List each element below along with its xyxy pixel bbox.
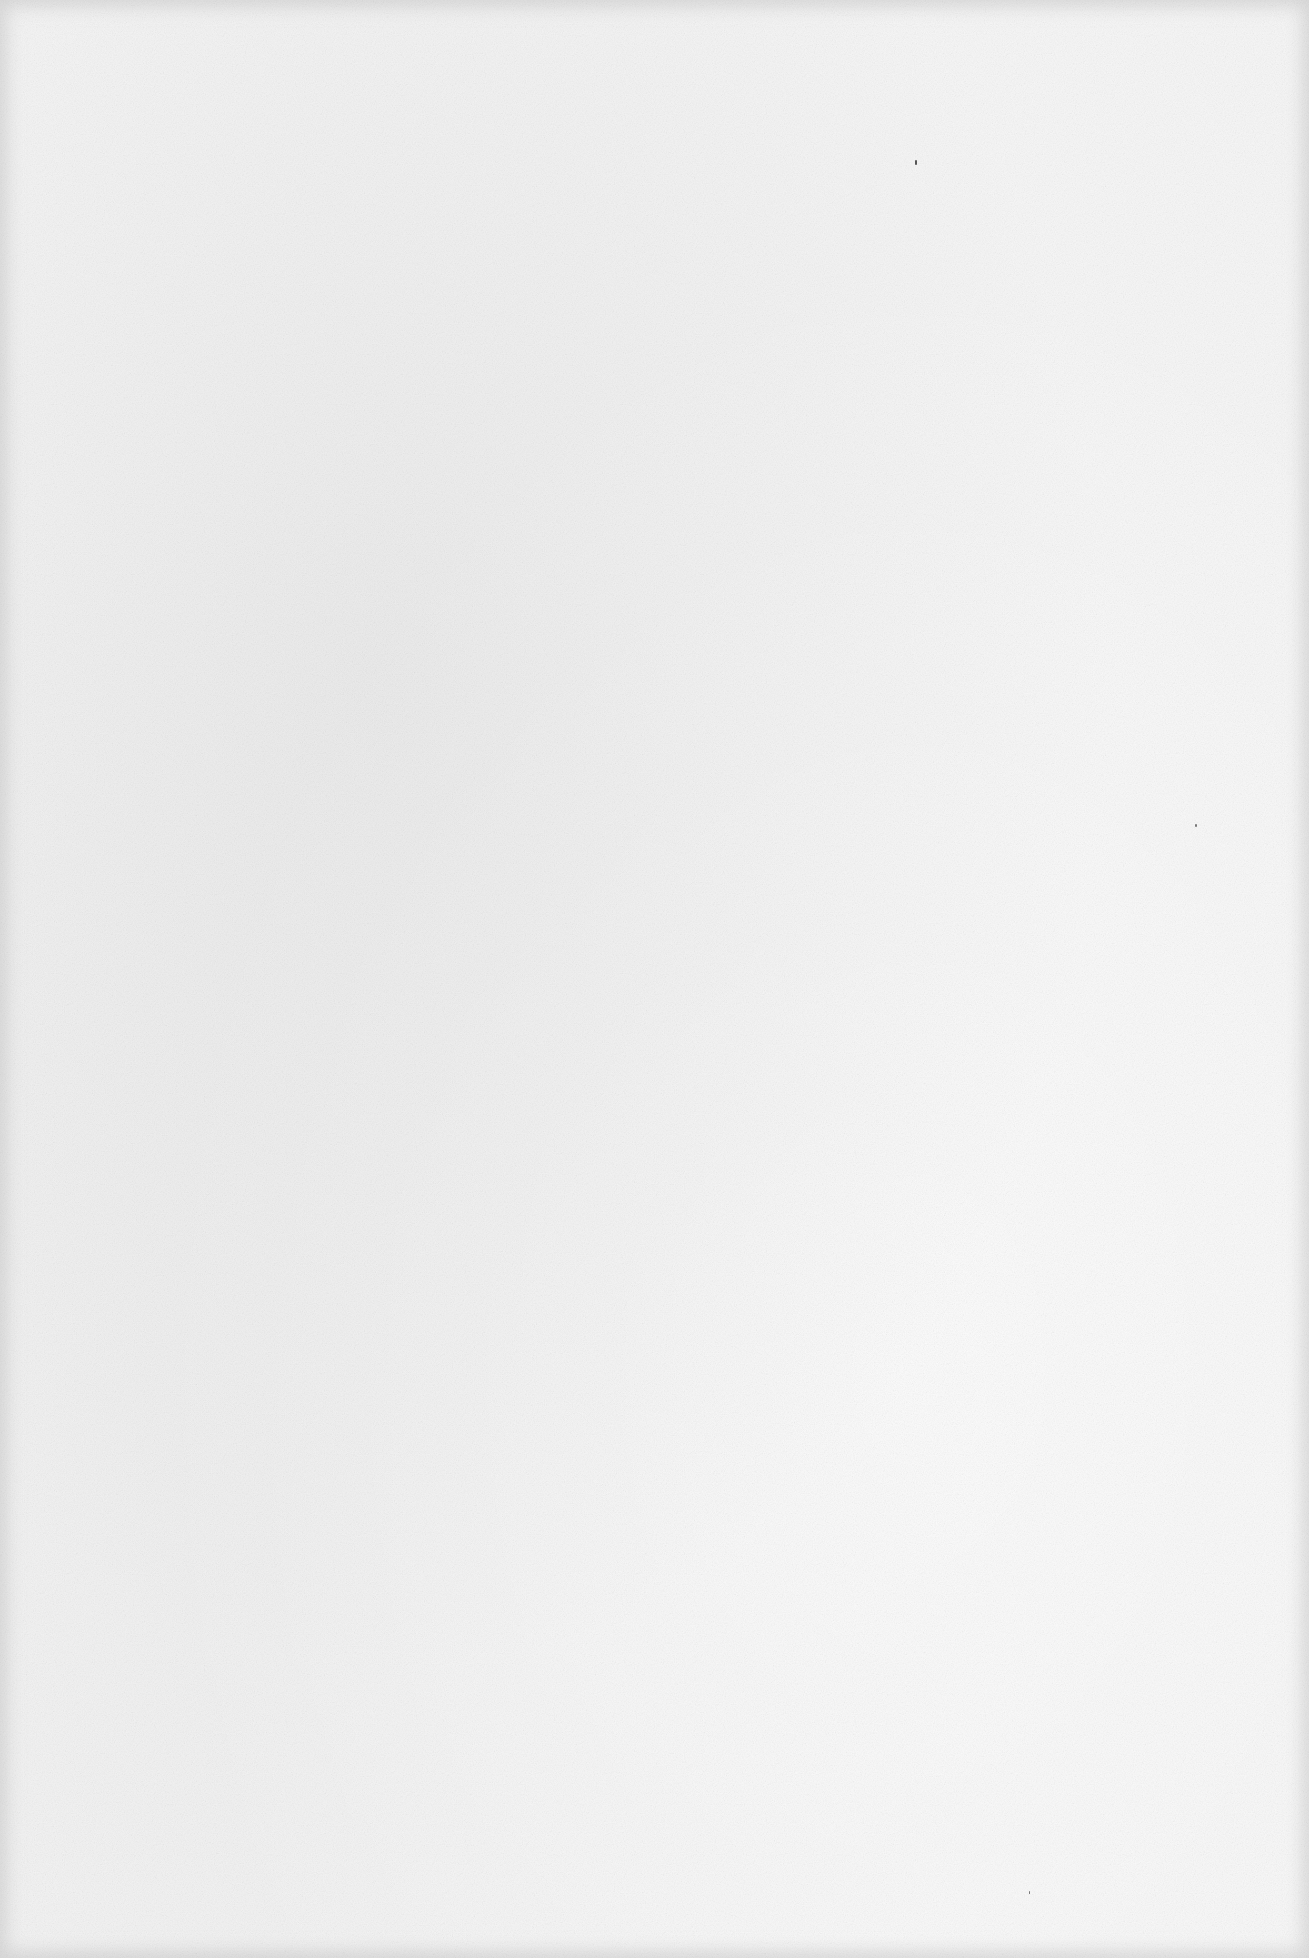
dust-speck	[915, 160, 917, 165]
blank-scanned-page	[0, 0, 1309, 1958]
dust-speck	[1195, 824, 1197, 827]
dust-speck	[1029, 1891, 1030, 1894]
paper-grain-texture	[0, 0, 1309, 1958]
